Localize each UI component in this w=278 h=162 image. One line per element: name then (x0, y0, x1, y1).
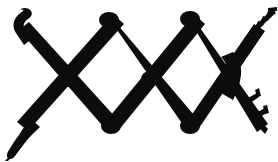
bottom-right-apex-node (180, 118, 200, 134)
zigzag-lattice-glyph: Black zigzag lattice ornament with two d… (0, 0, 278, 162)
left-crossing-node (59, 71, 77, 87)
right-crossing-node (220, 69, 238, 85)
artwork-stage: Black zigzag lattice ornament with two d… (0, 0, 278, 162)
top-right-apex-node (180, 11, 200, 27)
bottom-left-apex-node (101, 118, 121, 134)
top-left-apex-node (99, 12, 119, 28)
center-crossing-node (141, 71, 159, 87)
